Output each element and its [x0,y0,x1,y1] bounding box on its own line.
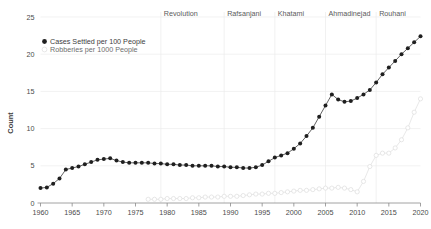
era-label: Ahmadinejad [329,9,371,18]
data-point [343,100,347,104]
data-point [368,164,372,168]
data-point [419,34,423,38]
data-point [260,192,264,196]
data-point [324,104,328,108]
data-point [285,190,289,194]
series-robberies [146,97,423,202]
data-point [336,98,340,102]
data-point [412,40,416,44]
chart-legend: Cases Settled per 100 People Robberies p… [42,37,145,54]
data-point [399,138,403,142]
y-tick-label: 10 [27,124,35,133]
data-point [83,162,87,166]
data-point [406,126,410,130]
series-cases-settled [39,34,423,190]
data-point [235,165,239,169]
data-point [45,185,49,189]
data-point [298,141,302,145]
data-point [127,161,131,165]
data-point [292,147,296,151]
era-label: Rafsanjani [227,9,261,18]
data-point [159,162,163,166]
era-label: Rouhani [379,9,406,18]
series-polyline [148,99,420,199]
data-point [387,151,391,155]
data-point [178,196,182,200]
data-point [121,160,125,164]
data-point [412,110,416,114]
line-chart-plot: 1960196519701975198019851990199520002005… [0,0,431,229]
data-point [311,188,315,192]
data-point [153,162,157,166]
data-point [361,179,365,183]
data-point [330,92,334,96]
data-point [184,163,188,167]
data-point [152,197,156,201]
data-point [222,165,226,169]
x-tick-label: 1970 [96,208,112,217]
data-point [197,196,201,200]
data-point [171,196,175,200]
data-point [387,66,391,70]
data-point [228,194,232,198]
data-point [247,193,251,197]
legend-label-robberies: Robberies per 1000 People [50,45,138,54]
x-tick-label: 1960 [33,208,49,217]
data-point [216,195,220,199]
data-point [241,193,245,197]
data-point [209,195,213,199]
data-point [349,99,353,103]
data-point [197,164,201,168]
data-point [304,188,308,192]
chart-container: 1960196519701975198019851990199520002005… [0,0,431,229]
x-tick-label: 1995 [254,208,270,217]
data-point [266,191,270,195]
x-tick-labels-group: 1960196519701975198019851990199520002005… [33,208,429,217]
data-point [292,189,296,193]
data-point [216,165,220,169]
legend-marker-cases-settled [42,39,47,44]
x-tick-label: 2020 [413,208,429,217]
y-tick-label: 25 [27,13,35,22]
data-point [254,192,258,196]
data-point [381,72,385,76]
data-point [349,188,353,192]
data-point [77,165,81,169]
data-point [146,161,150,165]
data-point [311,126,315,130]
data-point [165,162,169,166]
x-tick-label: 1980 [159,208,175,217]
data-point [355,96,359,100]
data-point [203,164,207,168]
data-point [210,164,214,168]
data-point [406,46,410,50]
x-tick-label: 2015 [381,208,397,217]
data-point [102,157,106,161]
x-tick-label: 1985 [191,208,207,217]
data-point [140,161,144,165]
data-point [70,166,74,170]
data-point [203,195,207,199]
data-point [393,146,397,150]
data-point [336,185,340,189]
data-point [58,176,62,180]
data-point [362,92,366,96]
era-labels-group: RevolutionRafsanjaniKhatamiAhmadinejadRo… [164,9,407,18]
data-point [89,160,93,164]
data-point [368,88,372,92]
data-point [418,97,422,101]
data-point [159,197,163,201]
data-point [115,159,119,163]
legend-marker-robberies [42,47,47,52]
data-point [305,134,309,138]
y-tick-label: 5 [31,161,35,170]
data-point [342,186,346,190]
data-point [248,166,252,170]
data-point [330,186,334,190]
era-label: Revolution [164,9,198,18]
data-point [317,187,321,191]
y-tick-label: 20 [27,50,35,59]
x-tick-label: 2005 [318,208,334,217]
data-point [165,196,169,200]
data-point [178,163,182,167]
